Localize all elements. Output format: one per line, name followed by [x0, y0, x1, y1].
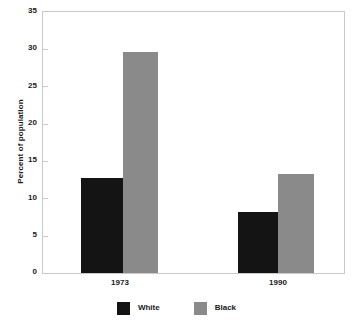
- y-tick-mark-15: [43, 161, 48, 162]
- y-tick-label-5: 5: [14, 231, 37, 239]
- legend-entry-white: White: [117, 302, 160, 315]
- y-tick-mark-25: [43, 86, 48, 87]
- y-tick-label-15: 15: [14, 156, 37, 164]
- legend-swatch-icon-white: [117, 302, 130, 315]
- x-tick-label-1973: 1973: [90, 278, 150, 288]
- legend-label-white: White: [138, 303, 160, 313]
- legend-entry-black: Black: [194, 302, 236, 315]
- y-tick-mark-20: [43, 124, 48, 125]
- bar-1973-white: [81, 178, 123, 273]
- y-tick-label-30: 30: [14, 44, 37, 52]
- legend: White Black: [0, 298, 353, 318]
- legend-label-black: Black: [215, 303, 236, 313]
- y-tick-mark-10: [43, 198, 48, 199]
- bar-1990-black: [278, 174, 314, 273]
- bar-1990-white: [238, 212, 278, 273]
- y-tick-label-25: 25: [14, 82, 37, 90]
- legend-swatch-icon-black: [194, 302, 207, 315]
- y-tick-label-10: 10: [14, 194, 37, 202]
- y-tick-label-0: 0: [14, 268, 37, 276]
- x-tick-label-1990: 1990: [248, 278, 308, 288]
- y-tick-label-20: 20: [14, 119, 37, 127]
- bar-chart: Percent of population 35 30 25 20 15 10 …: [0, 0, 353, 323]
- y-tick-mark-5: [43, 236, 48, 237]
- y-tick-mark-30: [43, 49, 48, 50]
- bar-1973-black: [123, 52, 158, 273]
- y-tick-label-35: 35: [14, 7, 37, 15]
- plot-area: [42, 11, 345, 274]
